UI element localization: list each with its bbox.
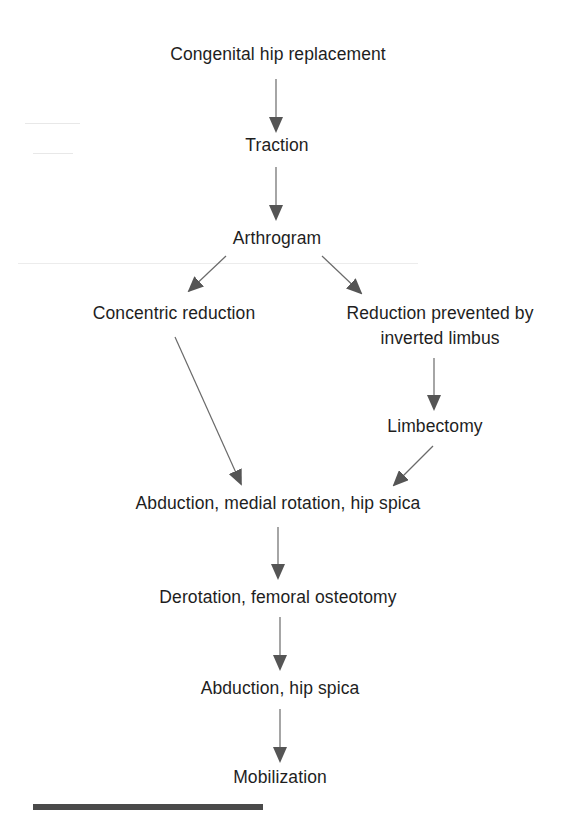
footer-rule [33,804,263,810]
node-arthrogram: Arthrogram [233,226,322,251]
arrow-arthrogram-to-concentric [189,256,226,291]
flowchart-edges [0,0,588,827]
arrow-limbectomy-to-abduction [394,446,433,485]
node-limbectomy: Limbectomy [387,414,482,439]
arrow-arthrogram-to-prevented [322,256,361,293]
node-reduction-prevented-line1: Reduction prevented by [346,301,533,326]
node-reduction-prevented-line2: inverted limbus [380,326,499,351]
node-traction: Traction [245,133,308,158]
node-abduction-medial-rotation: Abduction, medial rotation, hip spica [136,491,421,516]
node-abduction-hip-spica: Abduction, hip spica [201,676,360,701]
node-congenital-hip-replacement: Congenital hip replacement [170,42,386,67]
node-derotation-osteotomy: Derotation, femoral osteotomy [159,585,396,610]
arrow-concentric-to-abduction [175,337,241,484]
node-mobilization: Mobilization [233,765,327,790]
node-concentric-reduction: Concentric reduction [93,301,256,326]
